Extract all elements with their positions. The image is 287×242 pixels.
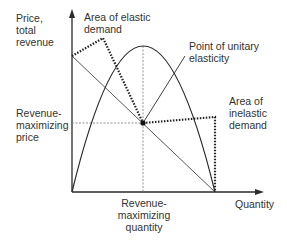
inelastic-demand-label: Area of inelastic demand [229,95,267,131]
elastic-demand-marker [72,38,143,123]
x-axis-arrow-icon [255,189,264,195]
unitary-leader-line [143,56,185,123]
x-axis-label: Quantity [235,198,274,210]
y-axis-label: Price, total revenue [16,12,54,48]
y-axis-arrow-icon [69,9,75,18]
unitary-elasticity-label: Point of unitary elasticity [189,40,259,64]
elastic-demand-label: Area of elastic demand [84,11,151,35]
unitary-point-icon [140,120,145,125]
inelastic-demand-marker [143,117,215,192]
rev-max-price-label: Revenue- maximizing price [16,107,69,143]
total-revenue-curve [72,46,215,192]
rev-max-quantity-label: Revenue- maximizing quantity [113,197,175,233]
